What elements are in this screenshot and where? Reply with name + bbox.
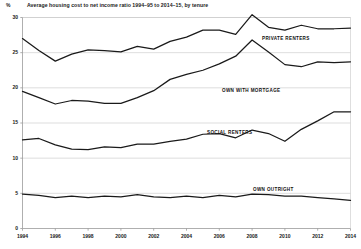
x-tick-label: 2014 — [341, 234, 361, 239]
y-tick-label: 5 — [2, 191, 18, 196]
x-tick-label: 2012 — [308, 234, 328, 239]
series-label-own-with-mortgage: OWN WITH MORTGAGE — [222, 88, 281, 93]
x-tick-label: 1998 — [78, 234, 98, 239]
y-tick-label: 0 — [2, 226, 18, 231]
x-tick-label: 2006 — [209, 234, 229, 239]
chart-container: % Average housing cost to net income rat… — [0, 0, 361, 249]
y-tick-label: 30 — [2, 15, 18, 20]
y-tick-label: 10 — [2, 156, 18, 161]
series-label-private-renters: PRIVATE RENTERS — [262, 36, 310, 41]
x-tick-label: 2008 — [242, 234, 262, 239]
series-line-own-with-mortgage — [23, 40, 351, 104]
series-label-social-renters: SOCIAL RENTERS — [207, 130, 252, 135]
x-tick-label: 1996 — [45, 234, 65, 239]
x-tick-label: 1994 — [13, 234, 33, 239]
y-tick-label: 15 — [2, 120, 18, 125]
x-tick-label: 2004 — [177, 234, 197, 239]
y-tick-label: 25 — [2, 50, 18, 55]
x-tick-label: 2002 — [144, 234, 164, 239]
y-tick-label: 20 — [2, 85, 18, 90]
series-line-own-outright — [23, 194, 351, 200]
x-tick-label: 2000 — [111, 234, 131, 239]
x-tick-label: 2010 — [275, 234, 295, 239]
series-label-own-outright: OWN OUTRIGHT — [253, 187, 294, 192]
series-line-social-renters — [23, 112, 351, 150]
